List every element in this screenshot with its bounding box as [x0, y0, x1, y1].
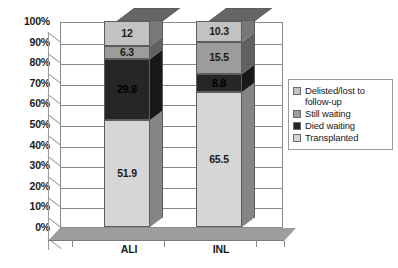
bar-segment[interactable]: 29.8	[104, 59, 150, 120]
y-axis-tick-label: 70%	[6, 78, 50, 89]
legend-label: Delisted/lost to follow-up	[305, 85, 388, 107]
bar-segment[interactable]: 10.3	[196, 21, 242, 42]
legend-label: Still waiting	[305, 108, 351, 119]
x-axis-tick-mark	[72, 241, 73, 247]
bar-segment-label: 15.5	[209, 52, 229, 63]
y-axis-tick-label: 40%	[6, 140, 50, 151]
bar-stack-ali[interactable]: 51.929.86.312	[104, 21, 150, 227]
bar-segment-side-face	[242, 82, 255, 227]
bar-segment-label: 12	[121, 28, 132, 39]
x-axis-tick-mark	[256, 241, 257, 247]
bar-segment[interactable]: 51.9	[104, 120, 150, 227]
y-axis-tick-label: 20%	[6, 181, 50, 192]
y-axis: 100%90%80%70%60%50%40%30%20%10%0%	[6, 0, 50, 268]
bar-segment-top-face	[117, 8, 180, 21]
y-axis-tick-label: 50%	[6, 119, 50, 130]
bar-segment-label: 29.8	[117, 84, 137, 95]
bar-segment-side-face	[150, 49, 163, 120]
y-axis-tick-label: 90%	[6, 37, 50, 48]
legend-swatch	[293, 122, 301, 130]
bar-segment-side-face	[150, 110, 163, 227]
legend-item[interactable]: Delisted/lost to follow-up	[293, 85, 388, 107]
x-axis-tick-mark	[164, 241, 165, 247]
y-axis-tick-label: 80%	[6, 57, 50, 68]
legend-label: Transplanted	[305, 132, 358, 143]
bar-segment-label: 51.9	[117, 168, 137, 179]
y-axis-tick-label: 60%	[6, 98, 50, 109]
legend-label: Died waiting	[305, 120, 355, 131]
bar-segment-top-face	[209, 8, 272, 21]
y-axis-tick-label: 100%	[6, 16, 50, 27]
y-axis-tick-label: 0%	[6, 222, 50, 233]
legend-item[interactable]: Still waiting	[293, 108, 388, 119]
bar-segment-label: 8.8	[212, 78, 226, 89]
plot-area: 51.929.86.31265.58.815.510.3	[60, 22, 283, 228]
legend-swatch	[293, 110, 301, 118]
y-axis-tick-label: 10%	[6, 201, 50, 212]
stacked-bar-chart: 100%90%80%70%60%50%40%30%20%10%0% 51.929…	[0, 0, 398, 268]
bar-segment-label: 6.3	[120, 47, 134, 58]
x-axis-tick-label: INL	[191, 243, 251, 255]
bar-segment[interactable]: 12	[104, 21, 150, 46]
bar-segment-label: 65.5	[209, 154, 229, 165]
bar-segment-label: 10.3	[209, 26, 229, 37]
legend-swatch	[293, 134, 301, 142]
legend-item[interactable]: Transplanted	[293, 132, 388, 143]
bar-segment[interactable]: 8.8	[196, 74, 242, 92]
axis-floor-edge	[48, 240, 284, 241]
x-axis-tick-label: ALI	[99, 243, 159, 255]
legend: Delisted/lost to follow-upStill waitingD…	[288, 79, 393, 150]
bar-segment[interactable]: 65.5	[196, 92, 242, 227]
x-axis-tick-mark	[284, 241, 285, 247]
bar-segment[interactable]: 15.5	[196, 42, 242, 74]
y-axis-tick-label: 30%	[6, 160, 50, 171]
legend-swatch	[293, 87, 301, 95]
bar-segment[interactable]: 6.3	[104, 46, 150, 59]
bar-stack-inl[interactable]: 65.58.815.510.3	[196, 21, 242, 227]
legend-item[interactable]: Died waiting	[293, 120, 388, 131]
